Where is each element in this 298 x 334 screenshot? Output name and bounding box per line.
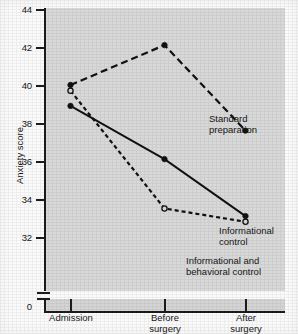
- annotation-infobeh-line1: Informational and: [186, 255, 298, 266]
- data-point-s0-1: [162, 42, 167, 47]
- data-point-s0-0: [68, 82, 73, 87]
- data-point-s1-2: [243, 213, 248, 218]
- annotation-info-line1: Informational: [219, 225, 295, 236]
- data-point-s1-0: [68, 103, 73, 108]
- data-point-s2-2: [243, 219, 248, 224]
- series-annotation-informational-control: Informational control: [219, 225, 295, 247]
- series-annotation-informational-behavioral-control: Informational and behavioral control: [186, 255, 298, 277]
- annotation-standard-line1: Standard: [209, 113, 295, 124]
- annotation-info-line2: control: [219, 236, 295, 247]
- anxiety-score-line-chart: 44 42 40 38 36 34 32 0 Anxiety score Adm…: [0, 0, 298, 334]
- data-point-s2-0: [68, 88, 73, 93]
- data-point-s1-1: [162, 156, 167, 161]
- data-point-s2-1: [162, 206, 167, 211]
- series-annotation-standard-preparation: Standard preparation: [209, 113, 295, 135]
- annotation-infobeh-line2: behavioral control: [186, 266, 298, 277]
- annotation-standard-line2: preparation: [209, 124, 295, 135]
- series-layer: [0, 0, 298, 334]
